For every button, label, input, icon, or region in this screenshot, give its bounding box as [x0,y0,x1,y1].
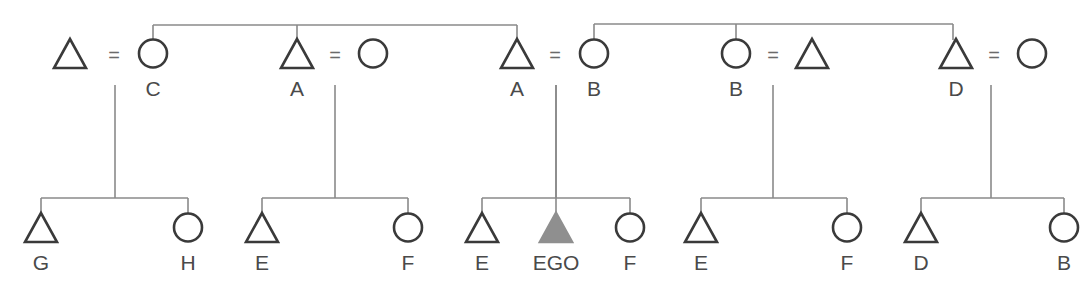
male-triangle-icon [466,213,498,242]
male-triangle-icon [685,213,717,242]
person-label: E [255,251,269,274]
male-triangle-icon [905,213,937,242]
person-label: A [510,77,524,100]
person-label: B [587,77,601,100]
marriage-equals-icon: = [988,44,1000,66]
kinship-diagram: =====CAABBDGHEFEEGOFEFDB [0,0,1092,284]
person-label: H [180,251,195,274]
female-circle-icon [722,40,750,68]
male-triangle-icon [25,213,57,242]
female-circle-icon [833,214,861,242]
male-triangle-icon [246,213,278,242]
marriage-equals-icon: = [329,44,341,66]
ego-triangle-icon [540,213,572,242]
person-label: F [841,251,854,274]
kinship-symbols [25,39,1078,242]
person-label: A [290,77,304,100]
person-label: F [624,251,637,274]
person-label: EGO [533,251,580,274]
male-triangle-icon [796,39,828,68]
person-label: D [948,77,963,100]
female-circle-icon [394,214,422,242]
female-circle-icon [1018,40,1046,68]
person-label: C [145,77,160,100]
marriage-equals-icon: = [108,44,120,66]
female-circle-icon [359,40,387,68]
female-circle-icon [616,214,644,242]
person-label: E [694,251,708,274]
male-triangle-icon [940,39,972,68]
female-circle-icon [139,40,167,68]
person-label: B [729,77,743,100]
male-triangle-icon [501,39,533,68]
person-label: G [33,251,49,274]
marriage-equals-icon: = [549,44,561,66]
marriage-equals-icon: = [767,44,779,66]
person-label: B [1057,251,1071,274]
female-circle-icon [174,214,202,242]
male-triangle-icon [281,39,313,68]
female-circle-icon [1050,214,1078,242]
male-triangle-icon [54,39,86,68]
person-label: D [913,251,928,274]
person-label: E [475,251,489,274]
person-label: F [402,251,415,274]
female-circle-icon [580,40,608,68]
